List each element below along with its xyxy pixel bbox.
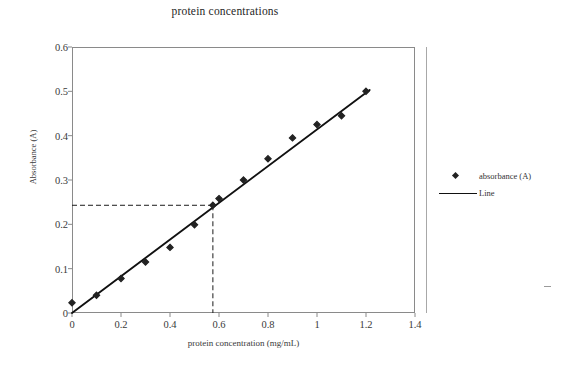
x-tick-label: 0.2 xyxy=(114,319,127,330)
legend-item-absorbance: absorbance (A) xyxy=(437,167,559,184)
x-tick-label: 0.8 xyxy=(261,319,274,330)
x-axis-tick-labels: 00.20.40.60.811.21.4 xyxy=(72,313,415,337)
legend-label-absorbance: absorbance (A) xyxy=(479,171,531,181)
data-point xyxy=(265,156,271,162)
data-point xyxy=(69,300,75,306)
legend-label-line: Line xyxy=(479,188,495,198)
chart-title: protein concentrations xyxy=(0,5,450,17)
y-tick-label: 0.6 xyxy=(34,42,68,53)
x-tick-label: 0 xyxy=(69,319,74,330)
line-swatch-icon xyxy=(437,186,479,200)
legend-separator xyxy=(426,47,427,313)
plot-canvas xyxy=(72,47,415,313)
chart-legend: absorbance (A) Line xyxy=(437,167,559,203)
x-axis-title: protein concentration (mg/mL) xyxy=(72,338,415,348)
x-tick-label: 1.2 xyxy=(359,319,372,330)
data-point xyxy=(210,202,216,208)
x-tick-label: 1 xyxy=(314,319,319,330)
data-point xyxy=(118,275,124,281)
data-point xyxy=(289,135,295,141)
x-tick-label: 0.6 xyxy=(212,319,225,330)
y-tick-label: 0.2 xyxy=(34,219,68,230)
data-point xyxy=(167,244,173,250)
legend-item-line: Line xyxy=(437,184,559,201)
y-tick-label: 0.5 xyxy=(34,86,68,97)
y-tick-label: 0.4 xyxy=(34,130,68,141)
chart-root: protein concentrations 00.10.20.30.40.50… xyxy=(0,0,567,368)
y-tick-label: 0.1 xyxy=(34,263,68,274)
y-tick-label: 0 xyxy=(34,308,68,319)
x-tick-label: 0.4 xyxy=(163,319,176,330)
diamond-marker-icon xyxy=(437,169,479,183)
y-tick-label: 0.3 xyxy=(34,175,68,186)
stray-tick-artifact xyxy=(544,286,551,287)
y-axis-title: Absorbance (A) xyxy=(28,97,38,217)
x-tick-label: 1.4 xyxy=(408,319,421,330)
